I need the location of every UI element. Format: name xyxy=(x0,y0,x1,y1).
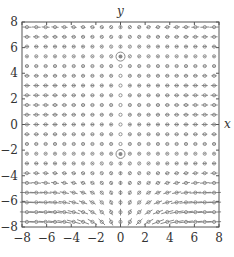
x-tick-label: 4 xyxy=(166,231,174,245)
x-tick-label: −2 xyxy=(87,231,105,245)
y-tick-label: −2 xyxy=(0,143,18,157)
x-tick-label: 2 xyxy=(141,231,149,245)
y-tick-label: −6 xyxy=(0,194,18,208)
x-tick-label: −6 xyxy=(38,231,56,245)
y-tick-label: 2 xyxy=(10,92,18,106)
y-tick-label: 8 xyxy=(10,15,18,29)
x-tick-label: 8 xyxy=(215,231,223,245)
y-tick-label: 0 xyxy=(10,118,18,132)
vector-field-plot: −8−6−4−202468 −8−6−4−202468 x y xyxy=(0,0,234,257)
y-axis-label: y xyxy=(116,4,124,18)
x-tick-label: 0 xyxy=(117,231,125,245)
y-tick-label: −8 xyxy=(0,220,18,234)
x-axis-label: x xyxy=(224,117,231,131)
y-tick-label: −4 xyxy=(0,169,18,183)
y-tick-label: 6 xyxy=(10,41,18,55)
x-tick-label: 6 xyxy=(191,231,199,245)
x-tick-label: −4 xyxy=(62,231,80,245)
y-tick-label: 4 xyxy=(10,66,18,80)
